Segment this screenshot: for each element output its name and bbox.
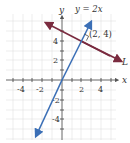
line-y-equals-2x: [62, 24, 90, 80]
coordinate-plane: -4 -2 2 4 4 2 -2 -4 x y (2, 4) y = 2x L: [0, 0, 130, 143]
x-axis-label: x: [122, 75, 127, 85]
line-label-y2x: y = 2x: [74, 4, 103, 14]
line-label-L: L: [121, 57, 128, 67]
y-tick-2: 2: [53, 56, 58, 65]
x-tick-neg2: -2: [36, 85, 44, 94]
x-tick-2: 2: [79, 85, 84, 94]
point-label: (2, 4): [89, 29, 112, 39]
y-tick-neg4: -4: [52, 115, 60, 124]
x-tick-neg4: -4: [17, 85, 25, 94]
y-tick-4: 4: [53, 37, 58, 46]
y-axis-label: y: [58, 5, 65, 15]
x-tick-4: 4: [98, 85, 103, 94]
